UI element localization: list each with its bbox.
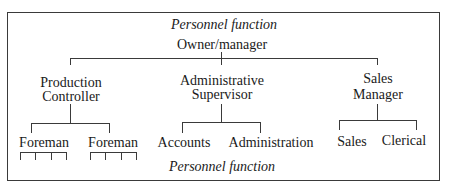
node-sales-manager-line1: Sales xyxy=(363,71,393,86)
header-caption: Personnel function xyxy=(171,17,277,32)
node-foreman-2: Foreman xyxy=(88,135,138,150)
node-sales: Sales xyxy=(337,134,367,149)
node-production-controller-line2: Controller xyxy=(42,89,100,104)
node-administration: Administration xyxy=(229,135,314,150)
node-sales-manager-line2: Manager xyxy=(353,87,403,102)
node-accounts: Accounts xyxy=(158,135,211,150)
node-administrative-supervisor-line1: Administrative xyxy=(180,73,264,88)
footer-caption: Personnel function xyxy=(169,159,275,174)
node-administrative-supervisor-line2: Supervisor xyxy=(192,87,253,102)
node-production-controller-line1: Production xyxy=(40,75,101,90)
node-owner-manager: Owner/manager xyxy=(177,37,267,52)
node-clerical: Clerical xyxy=(382,133,426,148)
node-foreman-1: Foreman xyxy=(19,135,69,150)
